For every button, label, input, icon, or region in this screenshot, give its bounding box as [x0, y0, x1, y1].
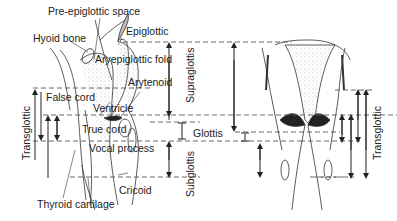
label-thyroid-cartilage: Thyroid cartilage [37, 199, 115, 210]
label-ventricle: Ventricle [93, 103, 133, 114]
label-cricoid: Cricoid [119, 185, 152, 196]
region-transglottic-left: Transglottic [21, 106, 32, 160]
coronal-section [262, 40, 350, 210]
label-arytenoid: Arytenoid [128, 77, 172, 88]
label-vocal-process: Vocal process [89, 143, 154, 154]
label-aryepiglottic-fold: Aryepiglottic fold [95, 54, 172, 65]
larynx-diagram: Pre-epiglottic space Hyoid bone Epiglott… [0, 0, 397, 221]
region-subglottis: Subglottis [185, 151, 196, 197]
label-pre-epiglottic-space: Pre-epiglottic space [48, 6, 140, 17]
label-false-cord: False cord [46, 92, 95, 103]
region-supraglottis: Supraglottis [185, 48, 196, 103]
region-glottis: Glottis [193, 128, 223, 139]
label-true-cord: True cord [82, 124, 127, 135]
region-transglottic-right: Transglottic [372, 106, 383, 160]
label-epiglottic: Epiglottic [126, 26, 169, 37]
label-hyoid-bone: Hyoid bone [33, 33, 86, 44]
